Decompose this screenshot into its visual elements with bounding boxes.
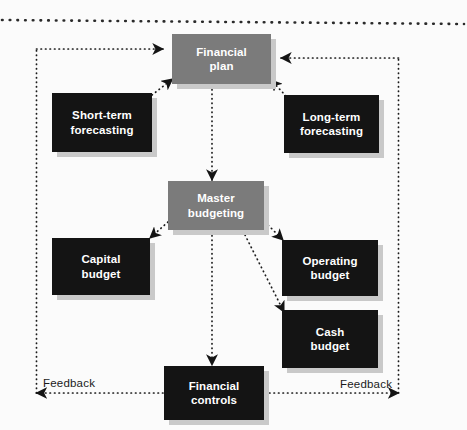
feedback-label-right: Feedback	[340, 378, 392, 390]
node-master-budgeting-label: Master budgeting	[188, 191, 244, 219]
node-long-term-forecasting-label: Long-term forecasting	[300, 110, 363, 138]
node-master-budgeting[interactable]: Master budgeting	[168, 181, 264, 230]
diagram-canvas: Financial plan Short-term forecasting Lo…	[0, 0, 467, 430]
node-financial-plan-label: Financial plan	[196, 45, 247, 73]
node-cash-budget[interactable]: Cash budget	[282, 310, 378, 368]
node-capital-budget[interactable]: Capital budget	[52, 238, 150, 295]
node-short-term-forecasting[interactable]: Short-term forecasting	[52, 93, 152, 152]
feedback-label-left: Feedback	[43, 377, 95, 389]
node-financial-plan[interactable]: Financial plan	[172, 34, 271, 84]
edge-master-to-cash	[243, 231, 284, 312]
node-operating-budget-label: Operating budget	[302, 254, 357, 282]
node-financial-controls[interactable]: Financial controls	[164, 366, 264, 420]
node-operating-budget[interactable]: Operating budget	[282, 240, 378, 296]
edge-short-term-to-plan	[152, 79, 173, 95]
node-capital-budget-label: Capital budget	[81, 252, 120, 280]
node-short-term-forecasting-label: Short-term forecasting	[70, 108, 133, 136]
node-long-term-forecasting[interactable]: Long-term forecasting	[284, 95, 379, 153]
edge-master-to-capital	[150, 222, 168, 238]
node-financial-controls-label: Financial controls	[189, 379, 240, 407]
node-cash-budget-label: Cash budget	[311, 325, 350, 353]
top-decorative-rule	[2, 20, 464, 24]
